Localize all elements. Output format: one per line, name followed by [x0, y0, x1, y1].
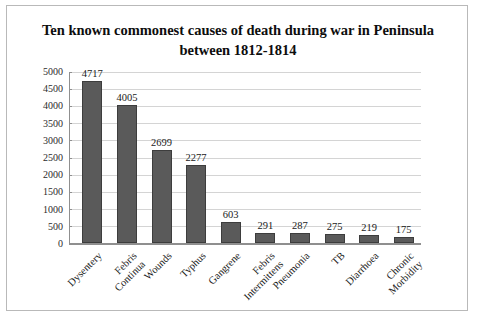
y-axis-tickmark: [69, 140, 72, 141]
y-axis-tick-label: 0: [58, 239, 63, 249]
y-axis-tickmark: [69, 158, 72, 159]
y-axis-tick-label: 3000: [43, 136, 63, 146]
bar[interactable]: [221, 222, 241, 243]
y-axis-tick-label: 2500: [43, 153, 63, 163]
y-axis-tickmark: [69, 192, 72, 193]
bar[interactable]: [359, 235, 379, 243]
bar[interactable]: [152, 150, 172, 243]
y-axis-tick-label: 3500: [43, 119, 63, 129]
y-axis-tickmark: [69, 106, 72, 107]
y-axis-tick-label: 500: [48, 222, 63, 232]
bar-value-label: 175: [380, 224, 428, 235]
bar-value-label: 4005: [103, 92, 151, 103]
gridline: [69, 72, 421, 73]
bar[interactable]: [117, 105, 137, 243]
x-axis-category-labels: DysenteryFebrisContinuaWoundsTyphusGangr…: [69, 246, 421, 316]
bar[interactable]: [325, 234, 345, 243]
bar[interactable]: [394, 237, 414, 243]
y-axis-tick-label: 2000: [43, 170, 63, 180]
y-axis-tickmark: [69, 226, 72, 227]
gridline: [69, 244, 421, 245]
y-axis-tick-label: 1000: [43, 205, 63, 215]
bar-value-label: 603: [207, 209, 255, 220]
bar-value-label: 4717: [68, 68, 116, 79]
y-axis-tick-labels: 0500100015002000250030003500400045005000: [29, 72, 63, 244]
chart-card: Ten known commonest causes of death duri…: [6, 5, 468, 311]
bar-value-label: 2699: [138, 137, 186, 148]
plot-area: 4717400526992277603291287275219175: [69, 72, 421, 244]
y-axis-tickmark: [69, 209, 72, 210]
y-axis-tick-label: 1500: [43, 187, 63, 197]
gridline: [69, 89, 421, 90]
bar-value-label: 2277: [172, 152, 220, 163]
y-axis-tickmark: [69, 123, 72, 124]
bar[interactable]: [82, 81, 102, 243]
bar[interactable]: [255, 233, 275, 243]
y-axis-tick-label: 4000: [43, 101, 63, 111]
y-axis-tick-label: 4500: [43, 84, 63, 94]
bar[interactable]: [290, 233, 310, 243]
y-axis-tickmark: [69, 175, 72, 176]
y-axis-tick-label: 5000: [43, 67, 63, 77]
y-axis-tickmark: [69, 244, 72, 245]
y-axis-tickmark: [69, 89, 72, 90]
bar[interactable]: [186, 165, 206, 243]
chart-title: Ten known commonest causes of death duri…: [37, 20, 439, 60]
